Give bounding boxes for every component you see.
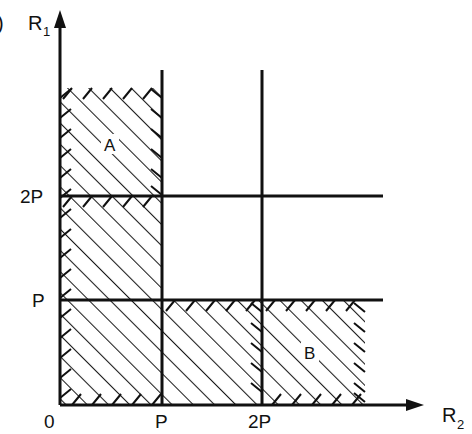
region-label-a: A [104, 136, 116, 155]
region-label-b: B [304, 344, 315, 363]
x-axis-label: R [442, 404, 456, 426]
region-label-b-group: B [301, 342, 319, 363]
x-tick-label-2p: 2P [248, 411, 271, 432]
figure-root: ) R 1 R 2 0 2P P P 2P A B [0, 0, 472, 434]
region-label-a-group: A [101, 134, 119, 155]
y-axis-label-subscript: 1 [43, 24, 50, 39]
y-tick-label-2p: 2P [20, 186, 43, 207]
y-axis-label: R [28, 12, 42, 34]
coordinate-diagram: ) R 1 R 2 0 2P P P 2P A B [0, 0, 472, 434]
y-tick-label-p: P [32, 290, 45, 311]
x-axis-label-subscript: 2 [457, 417, 464, 432]
origin-label: 0 [44, 411, 55, 432]
x-tick-label-p: P [155, 411, 168, 432]
figure-caption-fragment: ) [0, 12, 4, 34]
